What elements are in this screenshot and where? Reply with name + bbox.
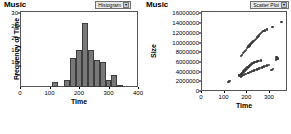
scatter-point: [266, 28, 268, 30]
histogram-y-axis-label: Frequency of Time: [13, 18, 21, 80]
scatter-x-tick-label: 300: [264, 94, 274, 100]
chevron-down-icon[interactable]: ▾: [123, 2, 129, 8]
scatter-y-tick-mark: [199, 32, 201, 33]
scatter-y-tick-mark: [199, 71, 201, 72]
scatter-y-axis-label: Size: [150, 44, 158, 58]
scatter-plot: 0200000040000006000000800000010000000120…: [201, 11, 287, 91]
histogram-panel: Music Histogram ▾ 51015202530 0100200300…: [0, 0, 145, 134]
scatter-point: [260, 59, 262, 61]
scatter-point: [272, 68, 274, 70]
chart-type-label-scatter: Scatter Plot: [253, 2, 279, 8]
histogram-y-tick-mark: [18, 13, 20, 14]
scatter-point: [268, 64, 270, 66]
histogram-plot: 51015202530 0100200300400 Time Frequency…: [20, 11, 138, 87]
scatter-y-tick-mark: [199, 61, 201, 62]
scatter-x-tick-mark: [201, 91, 202, 93]
histogram-x-tick-mark: [109, 87, 110, 89]
chart-type-select-histogram[interactable]: Histogram ▾: [95, 1, 131, 9]
scatter-x-axis-label: Time: [236, 102, 252, 110]
scatter-y-tick-label: 2000000: [176, 78, 199, 84]
scatter-y-tick-label: 14000000: [172, 20, 199, 26]
scatter-point: [280, 21, 282, 23]
histogram-x-tick-mark: [79, 87, 80, 89]
histogram-x-tick-mark: [20, 87, 21, 89]
scatter-point: [245, 49, 247, 51]
scatter-points: [201, 11, 287, 91]
scatter-panel: Music Scatter Plot ▾ 0200000040000006000…: [145, 0, 291, 134]
scatter-y-tick-mark: [199, 42, 201, 43]
chevron-down-icon-scatter[interactable]: ▾: [281, 2, 287, 8]
scatter-x-tick-label: 200: [241, 94, 251, 100]
histogram-x-axis-label: Time: [71, 98, 87, 106]
scatter-x-tick-mark: [269, 91, 270, 93]
histogram-y-tick-label: 30: [11, 10, 18, 16]
chart-type-select-scatter[interactable]: Scatter Plot ▾: [250, 1, 289, 9]
scatter-y-tick-label: 8000000: [176, 49, 199, 55]
scatter-x-tick-mark: [224, 91, 225, 93]
histogram-bar: [52, 82, 58, 87]
histogram-x-tick-mark: [138, 87, 139, 89]
scatter-y-tick-label: 6000000: [176, 59, 199, 65]
histogram-x-tick-label: 200: [74, 90, 84, 96]
scatter-x-tick-label: 100: [219, 94, 229, 100]
histogram-x-tick-label: 0: [18, 90, 21, 96]
scatter-point: [241, 54, 243, 56]
scatter-y-tick-label: 10000000: [172, 40, 199, 46]
scatter-y-tick-mark: [199, 81, 201, 82]
histogram-x-tick-label: 400: [133, 90, 143, 96]
histogram-x-tick-label: 300: [103, 90, 113, 96]
page-title: Music: [4, 0, 26, 10]
charts-app: Music Histogram ▾ 51015202530 0100200300…: [0, 0, 291, 134]
scatter-point: [276, 57, 278, 59]
histogram-x-tick-label: 100: [44, 90, 54, 96]
scatter-y-tick-mark: [199, 13, 201, 14]
scatter-point: [271, 26, 273, 28]
scatter-x-tick-mark: [246, 91, 247, 93]
histogram-x-tick-mark: [50, 87, 51, 89]
chart-type-label: Histogram: [98, 2, 121, 8]
scatter-y-tick-label: 12000000: [172, 30, 199, 36]
histogram-bars: [20, 11, 138, 87]
histogram-bar: [117, 85, 123, 87]
scatter-y-tick-label: 16000000: [172, 10, 199, 16]
scatter-y-tick-label: 4000000: [176, 69, 199, 75]
scatter-x-tick-label: 0: [199, 94, 202, 100]
scatter-y-tick-mark: [199, 52, 201, 53]
page-title-scatter: Music: [146, 0, 168, 10]
scatter-y-tick-mark: [199, 23, 201, 24]
